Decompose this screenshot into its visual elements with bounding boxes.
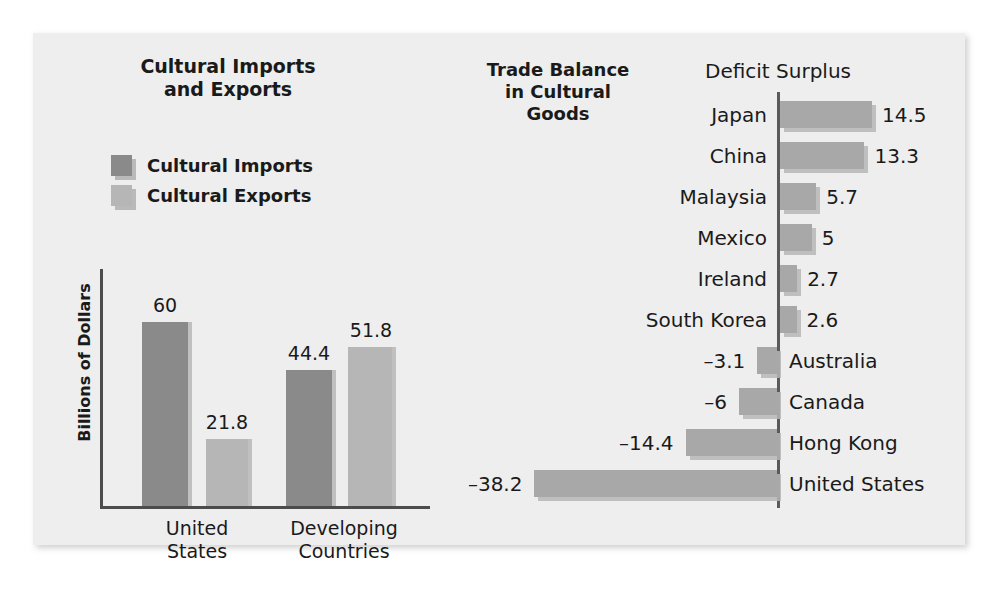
trade-balance-value-label: 14.5 [882,103,927,127]
trade-balance-bar [780,224,812,251]
bar-label-developing-exports: 51.8 [336,319,406,341]
trade-balance-country-label: Mexico [513,226,767,250]
trade-balance-value-label: –3.1 [667,349,745,373]
legend-label-exports: Cultural Exports [147,185,311,206]
trade-balance-value-label: –38.2 [444,472,522,496]
trade-balance-bar [780,265,797,292]
deficit-surplus-header: Deficit Surplus [633,59,923,83]
trade-balance-bar [780,183,816,210]
trade-balance-bar [757,347,777,374]
bar-developing-imports [286,370,332,506]
right-chart-title-line1: Trade Balance [463,59,653,81]
trade-balance-value-label: –14.4 [596,431,674,455]
trade-balance-value-label: 13.3 [874,144,919,168]
trade-balance-country-label: Hong Kong [789,431,969,455]
bar-us-exports [206,439,248,506]
trade-balance-value-label: 2.6 [807,308,839,332]
bar-label-us-exports: 21.8 [192,411,262,433]
trade-balance-row: Malaysia5.7 [453,177,965,218]
trade-balance-row: Japan14.5 [453,95,965,136]
trade-balance-value-label: 2.7 [807,267,839,291]
trade-balance-row: United States–38.2 [453,464,965,505]
trade-balance-value-label: –6 [649,390,727,414]
trade-balance-bar [739,388,777,415]
trade-balance-country-label: South Korea [513,308,767,332]
trade-balance-row: Mexico5 [453,218,965,259]
trade-balance-row: South Korea2.6 [453,300,965,341]
trade-balance-chart: Trade Balance in Cultural Goods Deficit … [453,33,965,545]
trade-balance-row: China13.3 [453,136,965,177]
group-label-united-states: United States [122,517,272,563]
legend-swatch-exports [111,185,132,206]
trade-balance-value-label: 5 [822,226,835,250]
trade-balance-row: Australia–3.1 [453,341,965,382]
legend-swatch-imports [111,155,132,176]
left-chart-plot-area: 60 21.8 44.4 51.8 United States Developi… [100,269,430,509]
trade-balance-bar [780,142,864,169]
bar-label-developing-imports: 44.4 [274,342,344,364]
chart-page: Cultural Imports and Exports Cultural Im… [0,0,1002,591]
group-label-developing-countries: Developing Countries [264,517,424,563]
bar-developing-exports [348,347,392,506]
trade-balance-country-label: Malaysia [513,185,767,209]
group-label-developing-countries-line2: Countries [264,540,424,563]
left-chart-legend: Cultural Imports Cultural Exports [111,155,411,215]
trade-balance-bar [534,470,777,497]
trade-balance-country-label: Canada [789,390,969,414]
bar-us-imports [142,322,188,506]
legend-item-cultural-exports: Cultural Exports [111,185,411,206]
left-chart-title-line2: and Exports [33,78,423,101]
trade-balance-country-label: Australia [789,349,969,373]
bar-label-us-imports: 60 [130,294,200,316]
trade-balance-bar [780,101,872,128]
left-chart-title: Cultural Imports and Exports [33,55,423,101]
trade-balance-row: Canada–6 [453,382,965,423]
trade-balance-value-label: 5.7 [826,185,858,209]
y-axis-line [100,269,103,509]
trade-balance-country-label: China [513,144,767,168]
group-label-developing-countries-line1: Developing [264,517,424,540]
group-label-united-states-line1: United [122,517,272,540]
trade-balance-bar [780,306,797,333]
y-axis-label: Billions of Dollars [75,268,94,458]
trade-balance-country-label: Japan [513,103,767,127]
left-chart-title-line1: Cultural Imports [33,55,423,78]
trade-balance-country-label: United States [789,472,969,496]
legend-label-imports: Cultural Imports [147,155,313,176]
trade-balance-row: Ireland2.7 [453,259,965,300]
trade-balance-bar [686,429,777,456]
cultural-imports-exports-chart: Cultural Imports and Exports Cultural Im… [33,33,453,545]
group-label-united-states-line2: States [122,540,272,563]
x-axis-line [100,506,430,509]
legend-item-cultural-imports: Cultural Imports [111,155,411,176]
trade-balance-country-label: Ireland [513,267,767,291]
trade-balance-row: Hong Kong–14.4 [453,423,965,464]
